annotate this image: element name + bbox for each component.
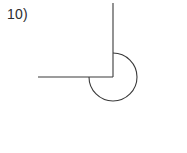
reflex-angle-diagram — [0, 0, 187, 153]
worksheet-figure-panel: 10) — [0, 0, 187, 153]
